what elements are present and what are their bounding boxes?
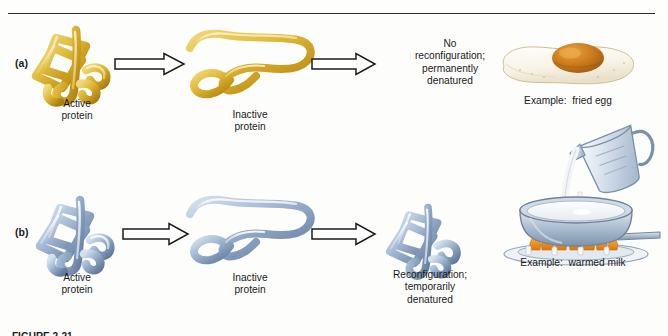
caption-a-outcome: No reconfiguration; permanently denature… <box>390 38 510 88</box>
block-arrow-right-icon-b2 <box>311 222 377 246</box>
top-rule-divider <box>8 13 655 14</box>
figure-caption-clipped: FIGURE 2-21 <box>12 331 73 336</box>
caption-a-example: Example: fried egg <box>488 95 648 107</box>
caption-b-example: Example: warmed milk <box>488 257 658 269</box>
block-arrow-right-icon-a1 <box>114 52 186 76</box>
row-label-b: (b) <box>15 226 29 238</box>
protein-denaturation-figure: (a) <box>0 0 668 336</box>
block-arrow-right-icon-a2 <box>311 52 377 76</box>
caption-b-outcome: Reconfiguration; temporarily denatured <box>370 269 490 306</box>
unfolded-protein-yellow-icon <box>186 26 318 104</box>
saucepan-with-flames-icon <box>496 192 662 264</box>
fried-egg-icon <box>494 36 642 94</box>
unfolded-protein-blue-icon <box>186 192 318 272</box>
caption-a-inactive-protein: Inactive protein <box>190 109 310 134</box>
folded-protein-blue-icon <box>28 188 128 280</box>
caption-b-active-protein: Active protein <box>22 272 132 297</box>
caption-a-active-protein: Active protein <box>22 98 132 123</box>
folded-protein-yellow-icon <box>24 18 124 110</box>
block-arrow-right-icon-b1 <box>122 222 190 246</box>
caption-b-inactive-protein: Inactive protein <box>190 272 310 297</box>
